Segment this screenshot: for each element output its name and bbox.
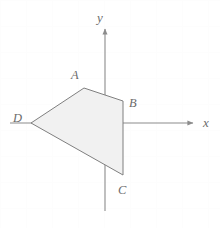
vertex-label-a: A	[71, 69, 79, 82]
x-axis-label: x	[203, 116, 209, 129]
y-axis-label: y	[97, 11, 103, 24]
vertex-label-b: B	[129, 97, 137, 110]
vertex-label-d: D	[13, 112, 22, 125]
geometry-figure: x y A B C D	[0, 0, 220, 228]
vertex-label-c: C	[118, 184, 126, 197]
figure-canvas	[0, 0, 220, 228]
